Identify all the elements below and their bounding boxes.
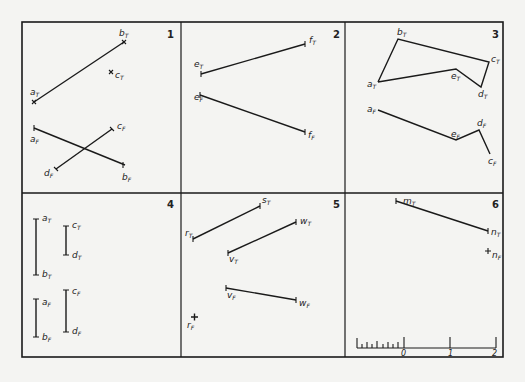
labels-panel-1: aT bT cT aF bF cF dF [30,28,132,183]
scale-bar [357,337,496,348]
labels-panel-5: rT sT vT wT vF wF rF [185,195,312,331]
line-ef-top [201,44,305,74]
svg-text:dT: dT [478,89,489,100]
panel-number-3: 3 [492,29,499,40]
svg-text:bT: bT [397,27,408,38]
svg-text:cF: cF [488,156,497,167]
line-rs-top [193,206,260,239]
svg-text:fT: fT [309,35,317,46]
svg-text:eT: eT [194,59,205,70]
svg-text:vF: vF [227,290,236,301]
point-markers [32,40,491,337]
svg-text:eF: eF [194,92,204,103]
line-ab-front [34,128,125,165]
svg-text:nF: nF [492,250,502,261]
svg-text:sT: sT [262,195,272,206]
panel-number-4: 4 [167,199,174,210]
svg-text:rT: rT [185,228,194,239]
line-ef-front [200,95,305,132]
panel-number-1: 1 [167,29,174,40]
svg-text:dT: dT [72,250,83,261]
line-cd-front [56,129,112,169]
diagram-canvas: 1 2 3 4 5 6 [0,0,525,382]
labels-panel-2: eT fT eF fF [194,35,317,141]
svg-text:mT: mT [403,196,417,207]
svg-text:dF: dF [72,326,82,337]
polyline-front [378,110,490,154]
svg-text:fF: fF [308,130,315,141]
svg-text:dF: dF [44,168,54,179]
svg-text:cT: cT [72,220,82,231]
svg-text:aT: aT [367,79,378,90]
polygon-top [378,39,489,87]
svg-text:dF: dF [477,118,487,129]
panel-number-6: 6 [492,199,499,210]
panel-grid [22,22,503,357]
line-vw-front [226,288,296,300]
label-a-top: aT [30,87,41,98]
svg-text:bT: bT [119,28,130,39]
svg-text:cF: cF [117,121,126,132]
panel-number-2: 2 [333,29,340,40]
svg-text:bT: bT [42,269,53,280]
scale-tick-2: 2 [492,349,497,358]
svg-text:cT: cT [115,70,125,81]
svg-text:nT: nT [491,227,502,238]
scale-tick-0: 0 [401,349,406,358]
scale-tick-1: 1 [448,349,453,358]
svg-text:rF: rF [187,320,195,331]
svg-text:wT: wT [300,216,312,227]
svg-text:cT: cT [491,54,501,65]
svg-text:wF: wF [299,298,310,309]
svg-text:cF: cF [72,286,81,297]
svg-text:aF: aF [367,104,377,115]
labels-panel-4: aT bT cT dT aF bF cF dF [42,213,83,343]
svg-text:bF: bF [122,172,132,183]
svg-text:aF: aF [42,297,52,308]
svg-text:aF: aF [30,134,40,145]
svg-text:aT: aT [42,213,53,224]
svg-text:eF: eF [451,129,461,140]
line-vw-top [228,222,296,253]
panel-number-5: 5 [333,199,340,210]
svg-text:bF: bF [42,332,52,343]
svg-text:vT: vT [229,254,239,265]
